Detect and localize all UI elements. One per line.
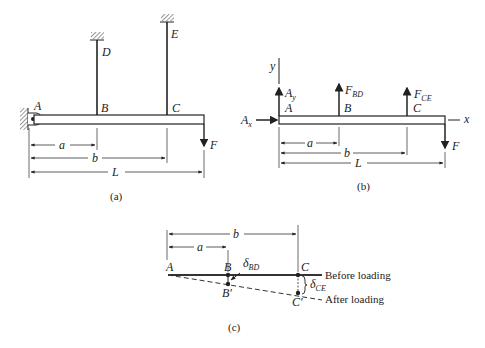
label-D: D: [101, 45, 111, 59]
dim-a: a: [197, 240, 203, 254]
label-E: E: [170, 27, 179, 41]
figure-canvas: F A B C D E a b L (a) y x A: [0, 0, 485, 348]
caption-c: (c): [228, 321, 241, 334]
caption-a: (a): [110, 190, 123, 203]
label-B-prime: B′: [222, 286, 232, 300]
brace-icon: [302, 276, 307, 294]
dim-a: a: [59, 138, 65, 152]
figure-b: y x Ay A Ax FBD B FCE C F a b: [240, 58, 470, 193]
dim-L: L: [111, 165, 119, 179]
label-before-loading: Before loading: [325, 269, 391, 281]
beam: [34, 115, 204, 124]
label-C: C: [172, 101, 181, 115]
dim-b: b: [233, 227, 239, 241]
label-A: A: [284, 101, 293, 115]
dim-L: L: [354, 156, 362, 170]
label-A: A: [165, 260, 174, 274]
label-F: F: [451, 139, 460, 153]
label-C: C: [413, 101, 422, 115]
label-C: C: [301, 260, 310, 274]
label-FBD: FBD: [344, 83, 363, 99]
label-x-axis: x: [463, 112, 470, 126]
dim-b: b: [92, 151, 98, 165]
label-B: B: [224, 260, 232, 274]
label-F: F: [209, 138, 218, 152]
figure-a: F A B C D E a b L (a): [20, 14, 218, 203]
label-Ay: Ay: [284, 86, 296, 102]
label-C-prime: C′: [292, 295, 303, 309]
label-Ax: Ax: [240, 113, 252, 129]
label-y-axis: y: [269, 59, 276, 73]
label-B: B: [344, 101, 352, 115]
label-dCE: δCE: [310, 277, 326, 293]
beam-fbd: [279, 116, 445, 124]
wall-support-icon: [20, 108, 28, 130]
label-B: B: [101, 101, 109, 115]
figure-c: b a A B C B′ C′ δBD δCE Before loading A…: [165, 225, 391, 334]
dim-a: a: [307, 136, 313, 150]
dim-b: b: [344, 146, 350, 160]
label-dBD: δBD: [243, 256, 259, 272]
label-A: A: [33, 99, 42, 113]
label-after-loading: After loading: [325, 293, 384, 305]
caption-b: (b): [357, 180, 370, 193]
